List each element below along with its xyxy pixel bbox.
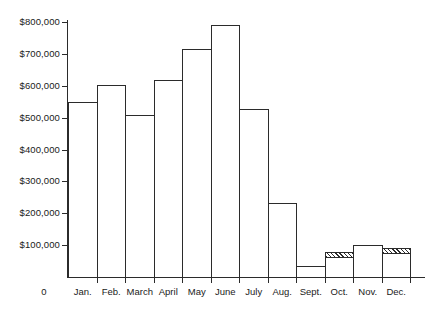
bar bbox=[97, 85, 127, 278]
bar bbox=[239, 109, 269, 278]
x-axis-tick-mark bbox=[97, 278, 98, 283]
bar-hatch-band bbox=[326, 253, 354, 258]
y-axis-tick-mark bbox=[62, 245, 68, 246]
x-axis-tick-mark bbox=[410, 278, 411, 283]
x-axis-tick-mark bbox=[239, 278, 240, 283]
y-axis-tick-mark bbox=[62, 150, 68, 151]
x-axis-tick-mark bbox=[182, 278, 183, 283]
bar bbox=[382, 248, 412, 278]
x-axis-tick-mark bbox=[211, 278, 212, 283]
bar-chart: $100,000$200,000$300,000$400,000$500,000… bbox=[0, 0, 431, 317]
bar bbox=[268, 203, 298, 278]
bar bbox=[211, 25, 241, 278]
x-axis-tick-mark bbox=[382, 278, 383, 283]
x-axis-tick-mark bbox=[268, 278, 269, 283]
y-axis-tick-mark bbox=[62, 86, 68, 87]
bar bbox=[353, 245, 383, 278]
x-axis-tick-mark bbox=[154, 278, 155, 283]
y-axis-tick-mark bbox=[62, 118, 68, 119]
x-axis-tick-mark bbox=[353, 278, 354, 283]
bar bbox=[68, 102, 98, 278]
x-axis-tick-label: Dec. bbox=[376, 286, 418, 297]
y-axis-tick-mark bbox=[62, 213, 68, 214]
y-axis-tick-mark bbox=[62, 22, 68, 23]
bar bbox=[296, 266, 326, 278]
x-axis-tick-mark bbox=[325, 278, 326, 283]
bar bbox=[325, 252, 355, 279]
y-axis-tick-mark bbox=[62, 54, 68, 55]
y-axis-tick-mark bbox=[62, 181, 68, 182]
plot-area bbox=[0, 0, 431, 317]
bar bbox=[125, 115, 155, 278]
x-axis-tick-mark bbox=[125, 278, 126, 283]
bar bbox=[154, 80, 184, 278]
x-axis-tick-mark bbox=[296, 278, 297, 283]
bar-hatch-band bbox=[383, 249, 411, 254]
bar bbox=[182, 49, 212, 278]
